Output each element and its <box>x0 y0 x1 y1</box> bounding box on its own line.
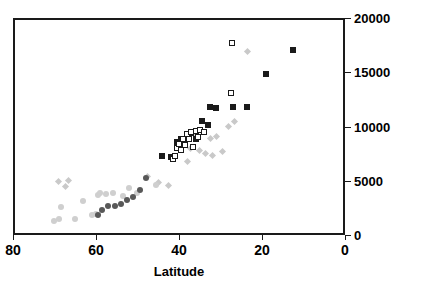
data-point <box>112 203 118 209</box>
x-axis-title: Latitude <box>13 264 345 279</box>
x-tick-label: 0 <box>325 242 365 258</box>
data-point <box>172 153 178 159</box>
data-point <box>165 182 172 189</box>
data-point <box>229 40 235 46</box>
data-point <box>56 216 62 222</box>
data-point <box>184 158 191 165</box>
plot-area <box>13 18 345 235</box>
x-tick <box>96 235 97 240</box>
x-tick-label: 80 <box>0 242 33 258</box>
x-tick-label: 20 <box>242 242 282 258</box>
data-point <box>143 175 149 181</box>
data-point <box>225 123 232 130</box>
y-tick <box>345 235 351 236</box>
y-tick <box>345 127 351 128</box>
data-point <box>244 48 251 55</box>
data-point <box>124 197 130 203</box>
data-point <box>244 104 250 110</box>
data-point <box>118 201 124 207</box>
data-point <box>186 136 192 142</box>
data-point <box>80 198 86 204</box>
data-point <box>159 153 165 159</box>
data-point <box>209 152 216 159</box>
data-point <box>103 191 109 197</box>
x-tick-label: 60 <box>76 242 116 258</box>
y-tick-label: 5000 <box>354 174 383 188</box>
data-point <box>72 216 78 222</box>
x-tick-label: 40 <box>159 242 199 258</box>
data-point <box>153 182 159 188</box>
data-point <box>182 142 188 148</box>
data-point <box>97 190 103 196</box>
data-point <box>228 90 234 96</box>
chart-title <box>0 0 429 3</box>
data-point <box>178 147 184 153</box>
x-tick <box>179 235 180 240</box>
scatter-chart: 806040200 05000100001500020000 Latitude … <box>0 0 429 290</box>
data-point <box>201 129 207 135</box>
data-point <box>130 194 136 200</box>
y-tick-label: 10000 <box>354 120 390 134</box>
data-point <box>55 178 62 185</box>
data-point <box>230 104 236 110</box>
y-tick <box>345 18 351 19</box>
data-point <box>213 105 219 111</box>
y-tick-label: 0 <box>354 228 361 242</box>
y-tick <box>345 72 351 73</box>
data-point <box>263 71 269 77</box>
data-point <box>110 190 116 196</box>
x-tick <box>13 235 14 240</box>
data-point <box>190 144 196 150</box>
data-point <box>219 148 226 155</box>
data-point <box>137 187 143 193</box>
data-point <box>105 203 111 209</box>
data-point <box>205 122 211 128</box>
data-point <box>58 204 64 210</box>
data-point <box>195 134 201 140</box>
y-tick-label: 20000 <box>354 11 390 25</box>
data-point <box>202 150 209 157</box>
data-point <box>290 47 296 53</box>
data-point <box>99 207 105 213</box>
y-tick-label: 15000 <box>354 65 390 79</box>
x-tick <box>262 235 263 240</box>
data-point <box>231 118 238 125</box>
data-point <box>126 185 132 191</box>
data-points-layer <box>15 20 343 233</box>
data-point <box>199 118 205 124</box>
data-point <box>207 104 213 110</box>
y-tick <box>345 181 351 182</box>
